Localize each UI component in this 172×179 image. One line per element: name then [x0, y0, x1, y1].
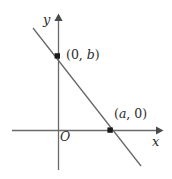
- y-intercept-point-marker: [55, 53, 60, 58]
- x-intercept-point-marker: [107, 127, 112, 132]
- x-axis: [12, 126, 164, 134]
- x-intercept-label: (a, 0): [114, 108, 147, 121]
- origin-label: O: [60, 131, 70, 144]
- graph-figure: y x O (0, b) (a, 0): [0, 0, 172, 179]
- y-axis: [54, 14, 62, 171]
- x-intercept-label-close: , 0): [126, 106, 147, 121]
- y-axis-arrowhead-icon: [54, 14, 62, 22]
- x-axis-label: x: [152, 135, 159, 148]
- y-intercept-variable: b: [87, 47, 95, 62]
- y-intercept-label: (0, b): [66, 49, 100, 62]
- y-intercept-label-open: (0,: [66, 47, 87, 62]
- y-axis-label: y: [43, 13, 50, 26]
- cartesian-plot-svg: [0, 0, 172, 179]
- y-intercept-label-close: ): [95, 47, 100, 62]
